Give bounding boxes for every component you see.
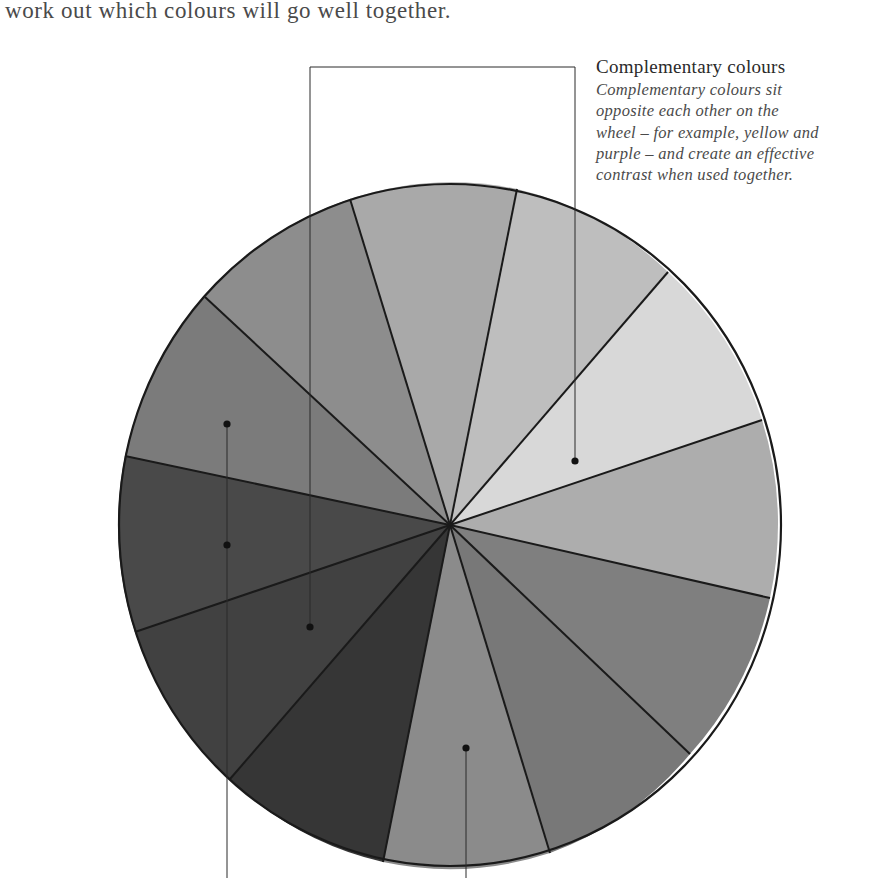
leader-dot xyxy=(462,744,469,751)
leader-dot xyxy=(571,457,578,464)
leader-dot xyxy=(223,420,230,427)
colour-wheel xyxy=(0,0,869,878)
leader-dot xyxy=(306,623,313,630)
leader-dot xyxy=(223,541,230,548)
